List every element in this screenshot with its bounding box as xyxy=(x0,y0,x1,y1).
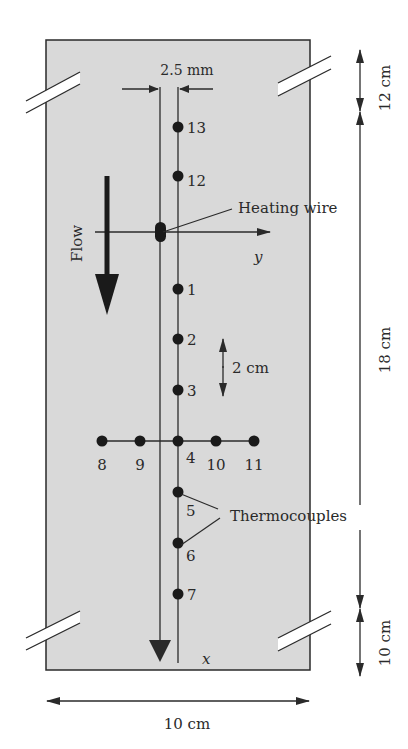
svg-text:11: 11 xyxy=(244,456,263,474)
svg-text:5: 5 xyxy=(186,502,196,520)
thermocouples-label: Thermocouples xyxy=(230,507,347,525)
svg-text:10: 10 xyxy=(206,456,225,474)
dim-top-label: 12 cm xyxy=(376,65,394,111)
heating-wire-label: Heating wire xyxy=(238,199,338,217)
svg-text:4: 4 xyxy=(186,449,196,467)
spacing-2cm-label: 2 cm xyxy=(232,359,269,377)
x-axis-label: x xyxy=(202,650,211,668)
wire-spacing-label: 2.5 mm xyxy=(160,62,213,78)
svg-text:8: 8 xyxy=(97,456,107,474)
svg-text:7: 7 xyxy=(187,586,197,604)
flow-arrow-shaft xyxy=(105,176,110,276)
dim-middle-label: 18 cm xyxy=(376,327,394,373)
flow-channel-diagram: 2.5 mm y Heating wire Flow 13 12 1 2 3 4… xyxy=(0,0,408,749)
svg-text:2: 2 xyxy=(187,331,197,349)
svg-text:6: 6 xyxy=(186,547,196,565)
svg-text:9: 9 xyxy=(135,456,145,474)
y-axis-label: y xyxy=(253,248,263,266)
dim-bottom-label: 10 cm xyxy=(376,620,394,666)
svg-text:1: 1 xyxy=(187,281,197,299)
svg-text:3: 3 xyxy=(187,382,197,400)
dim-width-label: 10 cm xyxy=(164,715,210,733)
svg-text:12: 12 xyxy=(187,172,206,190)
flow-label: Flow xyxy=(68,225,86,262)
svg-text:13: 13 xyxy=(187,119,206,137)
